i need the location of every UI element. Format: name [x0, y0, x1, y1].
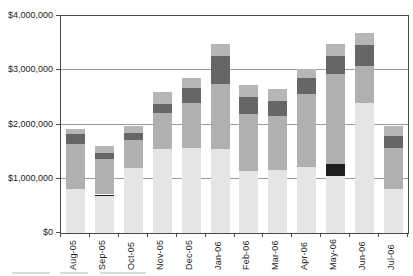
x-axis-tick: [320, 233, 321, 237]
y-axis-tick: [56, 15, 60, 16]
segment-bottom-light-gray: [297, 167, 316, 233]
segment-bottom-light-gray: [124, 168, 143, 233]
segment-dark-gray-band: [326, 56, 345, 74]
segment-medium-gray: [355, 66, 374, 103]
segment-bottom-light-gray: [66, 189, 85, 233]
segment-top-cap-gray: [297, 69, 316, 79]
stacked-bar-jul-06: [384, 16, 403, 233]
segment-medium-gray: [297, 94, 316, 167]
stacked-bar-oct-05: [124, 16, 143, 233]
segment-dark-gray-band: [211, 56, 230, 84]
x-axis-label: Mar-06: [270, 237, 280, 270]
segment-top-cap-gray: [268, 89, 287, 101]
segment-top-cap-gray: [326, 44, 345, 56]
segment-medium-gray: [211, 84, 230, 149]
plot-area: [60, 15, 409, 234]
y-axis-tick: [56, 124, 60, 125]
x-axis-label: Apr-06: [299, 237, 309, 270]
x-axis-tick: [262, 233, 263, 237]
x-axis-tick: [291, 233, 292, 237]
x-axis-label: Jan-06: [213, 237, 223, 270]
segment-dark-gray-band: [95, 153, 114, 160]
segment-medium-gray: [66, 144, 85, 188]
segment-top-cap-gray: [124, 126, 143, 133]
segment-medium-gray: [384, 148, 403, 189]
segment-top-cap-gray: [95, 146, 114, 153]
x-axis-tick: [407, 233, 408, 237]
y-axis-label: $1,000,000: [0, 173, 53, 183]
segment-bottom-light-gray: [95, 196, 114, 233]
segment-medium-gray: [95, 159, 114, 194]
segment-black-band: [95, 195, 114, 197]
x-axis-tick: [89, 233, 90, 237]
segment-dark-gray-band: [153, 104, 172, 112]
x-axis-tick: [60, 233, 61, 237]
segment-medium-gray: [326, 74, 345, 164]
x-axis-label: Aug-05: [68, 237, 78, 270]
x-axis-tick: [234, 233, 235, 237]
segment-medium-gray: [239, 114, 258, 171]
segment-top-cap-gray: [153, 92, 172, 104]
x-axis-label: Nov-05: [155, 237, 165, 270]
x-axis-label: Dec-05: [184, 237, 194, 270]
y-axis-label: $4,000,000: [0, 10, 53, 20]
segment-bottom-light-gray: [211, 149, 230, 233]
stacked-bar-jan-06: [211, 16, 230, 233]
segment-top-cap-gray: [66, 129, 85, 134]
segment-top-cap-gray: [355, 33, 374, 45]
x-axis-label: May-06: [328, 237, 338, 270]
y-axis-label: $3,000,000: [0, 64, 53, 74]
segment-bottom-light-gray: [268, 170, 287, 233]
segment-bottom-light-gray: [239, 171, 258, 233]
segment-top-cap-gray: [239, 85, 258, 97]
segment-dark-gray-band: [239, 97, 258, 114]
x-axis-tick: [378, 233, 379, 237]
segment-dark-gray-band: [268, 101, 287, 116]
chart-figure: $0$1,000,000$2,000,000$3,000,000$4,000,0…: [0, 0, 413, 276]
stacked-bar-may-06: [326, 16, 345, 233]
segment-top-cap-gray: [182, 78, 201, 88]
segment-top-cap-gray: [384, 126, 403, 136]
x-axis-label: Oct-05: [126, 237, 136, 270]
segment-medium-gray: [268, 116, 287, 169]
stacked-bar-feb-06: [239, 16, 258, 233]
x-axis-label: Sep-05: [97, 237, 107, 270]
stacked-bar-apr-06: [297, 16, 316, 233]
segment-medium-gray: [182, 103, 201, 148]
stacked-bar-jun-06: [355, 16, 374, 233]
segment-bottom-light-gray: [355, 103, 374, 233]
y-axis-label: $0: [0, 227, 53, 237]
segment-dark-gray-band: [66, 134, 85, 144]
stacked-bar-nov-05: [153, 16, 172, 233]
x-axis-label: Jul-06: [386, 237, 396, 270]
stacked-bar-aug-05: [66, 16, 85, 233]
stacked-bar-dec-05: [182, 16, 201, 233]
x-axis-tick: [176, 233, 177, 237]
stacked-bar-sep-05: [95, 16, 114, 233]
x-axis-tick: [118, 233, 119, 237]
stacked-bar-mar-06: [268, 16, 287, 233]
x-axis-tick: [349, 233, 350, 237]
segment-dark-gray-band: [297, 78, 316, 93]
segment-dark-gray-band: [355, 45, 374, 66]
segment-medium-gray: [153, 113, 172, 150]
segment-black-band: [326, 164, 345, 176]
segment-bottom-light-gray: [153, 149, 172, 233]
x-axis-label: Jun-06: [357, 237, 367, 270]
y-axis-tick: [56, 69, 60, 70]
x-axis-tick: [147, 233, 148, 237]
segment-medium-gray: [124, 140, 143, 168]
y-axis-label: $2,000,000: [0, 119, 53, 129]
segment-dark-gray-band: [124, 133, 143, 140]
y-axis-tick: [56, 178, 60, 179]
segment-bottom-light-gray: [182, 148, 201, 233]
segment-dark-gray-band: [182, 88, 201, 103]
x-axis-label: Feb-06: [241, 237, 251, 270]
x-axis-tick: [205, 233, 206, 237]
segment-bottom-light-gray: [384, 189, 403, 233]
segment-bottom-light-gray: [326, 176, 345, 233]
segment-top-cap-gray: [211, 44, 230, 56]
segment-dark-gray-band: [384, 136, 403, 148]
